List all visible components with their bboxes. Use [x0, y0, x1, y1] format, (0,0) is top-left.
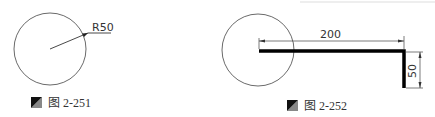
figure-2-251: R50 — [14, 13, 114, 85]
arrowhead-icon — [419, 52, 422, 58]
figure-marker-icon — [31, 97, 42, 108]
dimension-label-200: 200 — [320, 28, 341, 41]
arrowhead-icon — [82, 33, 88, 37]
caption-text: 图 2-251 — [48, 93, 91, 111]
arrowhead-icon — [259, 40, 265, 43]
thick-polyline — [259, 51, 404, 88]
caption-fig-2-251: 图 2-251 — [31, 93, 91, 111]
arrowhead-icon — [398, 40, 404, 43]
figure-2-252: 200 50 — [222, 14, 423, 88]
arrowhead-icon — [419, 82, 422, 88]
radius-label: R50 — [92, 21, 114, 34]
figure-marker-icon — [287, 100, 298, 111]
dimension-label-50: 50 — [406, 64, 419, 78]
caption-fig-2-252: 图 2-252 — [287, 96, 347, 114]
radius-leader — [50, 33, 88, 49]
caption-text: 图 2-252 — [304, 96, 347, 114]
